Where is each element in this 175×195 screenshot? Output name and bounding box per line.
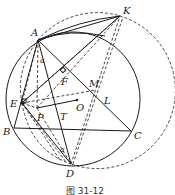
label-p: P — [36, 112, 44, 123]
label-k: K — [122, 5, 131, 16]
segment-ac — [38, 40, 131, 131]
segment-po — [37, 100, 77, 108]
label-d: D — [65, 168, 74, 179]
label-a: A — [30, 27, 38, 38]
dash-em — [22, 90, 96, 103]
auxiliary-dashed-circle — [38, 13, 175, 169]
geometry-diagram: α α A K B C D E F M L O P T 图 31-12 — [0, 0, 175, 195]
arc-a-k-2 — [38, 33, 105, 40]
point-o-dot — [76, 99, 78, 101]
label-o: O — [76, 102, 84, 113]
label-c: C — [134, 130, 142, 141]
segment-bc — [14, 128, 131, 131]
label-f: F — [60, 76, 69, 87]
label-e: E — [9, 98, 18, 109]
dash-ap — [37, 40, 38, 108]
figure-caption: 图 31-12 — [66, 186, 104, 195]
label-t: T — [60, 111, 68, 122]
label-l: L — [103, 95, 111, 106]
point-e-dot — [20, 101, 23, 104]
label-b: B — [2, 126, 10, 137]
segment-ab — [14, 40, 38, 128]
angle-alpha-d: α — [60, 146, 65, 154]
label-m: M — [88, 78, 100, 89]
dash-dk-2 — [73, 17, 123, 164]
angle-alpha-a: α — [40, 57, 45, 65]
